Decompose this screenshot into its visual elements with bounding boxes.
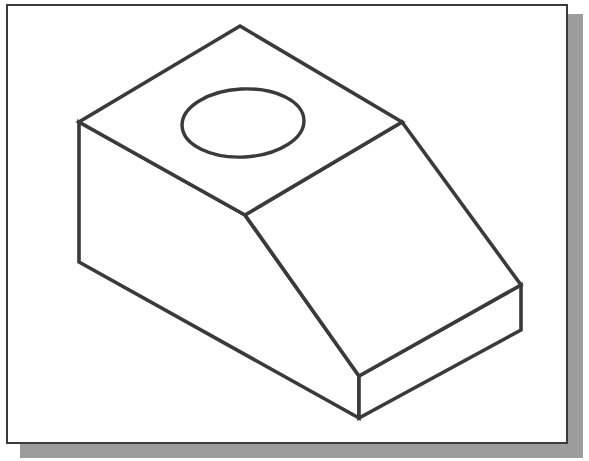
isometric-drawing (0, 0, 589, 461)
figure-root (0, 0, 589, 461)
